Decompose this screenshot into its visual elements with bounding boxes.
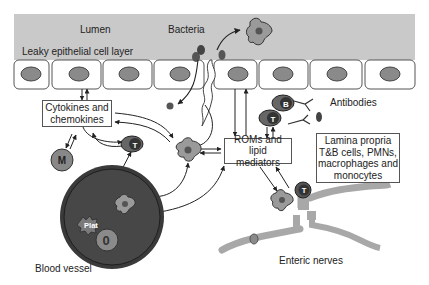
bacterium: [167, 103, 174, 110]
epithelial-layer-label: Leaky epithelial cell layer: [22, 46, 133, 57]
bacteria-label: Bacteria: [168, 24, 205, 35]
arrow: [260, 167, 277, 191]
cytokines-line1: Cytokines and: [45, 102, 108, 114]
macrophage-nucleus: [256, 28, 263, 35]
cell-nucleus: [21, 67, 41, 81]
cell-nucleus: [69, 67, 89, 81]
lumen-label: Lumen: [80, 24, 111, 35]
arrow: [93, 133, 122, 146]
bacterium: [197, 45, 205, 55]
t-cell-letter: T: [271, 115, 276, 124]
antibody-icon: [294, 99, 313, 111]
cytokines-box: Cytokines and chemokines: [42, 100, 112, 127]
enteric-nerves-label: Enteric nerves: [279, 255, 343, 266]
macrophage-nucleus: [122, 201, 128, 207]
arrow: [153, 166, 224, 213]
cell-nucleus: [228, 67, 248, 81]
blood-vessel-inner: [64, 169, 160, 265]
lamina-line2: T&B cells, PMNs,: [319, 147, 397, 159]
arrow: [83, 127, 122, 142]
cell-nucleus: [380, 67, 400, 81]
cell-nucleus: [273, 67, 293, 81]
antibody-icon: [288, 115, 310, 124]
blood-vessel-label: Blood vessel: [35, 263, 92, 274]
roms-box: ROMs and lipid mediators: [224, 138, 292, 164]
antigen-icon: [316, 112, 322, 122]
b-cell-letter: B: [283, 100, 289, 109]
cytokines-line2: chemokines: [50, 114, 103, 126]
cell-nucleus: [119, 67, 139, 81]
arrow: [115, 113, 173, 138]
arrow: [276, 167, 289, 188]
cell-nucleus: [327, 67, 347, 81]
monocyte-letter: M: [58, 155, 66, 166]
pmn-letter: 0: [102, 233, 109, 248]
lamina-line4: monocytes: [334, 170, 382, 182]
t-cell-letter: T: [302, 186, 307, 195]
macrophage-nucleus: [279, 197, 285, 203]
bacterium: [219, 50, 226, 60]
roms-line2: mediators: [236, 157, 280, 169]
cell-nucleus: [170, 67, 190, 81]
lamina-line3: macrophages and: [318, 158, 398, 170]
lamina-line1: Lamina propria: [325, 135, 392, 147]
t-cell-letter: T: [133, 141, 138, 150]
roms-line1: ROMs and lipid: [225, 134, 291, 157]
platelet-label: Plat: [84, 221, 98, 230]
lamina-propria-box: Lamina propria T&B cells, PMNs, macropha…: [316, 133, 400, 183]
macrophage-nucleus: [185, 147, 192, 154]
antibodies-label: Antibodies: [330, 97, 377, 108]
